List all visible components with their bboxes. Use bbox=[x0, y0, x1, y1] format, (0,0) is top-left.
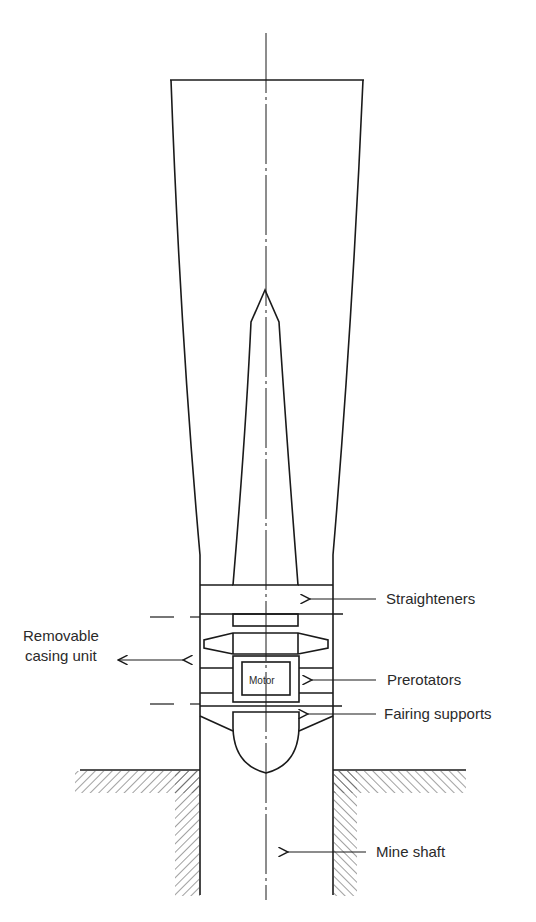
casing-left-wall bbox=[171, 80, 200, 555]
label-mine-shaft: Mine shaft bbox=[376, 843, 445, 861]
label-prerotators: Prerotators bbox=[387, 671, 461, 689]
ground-hatching bbox=[75, 771, 466, 896]
label-straighteners: Straighteners bbox=[386, 590, 475, 608]
label-removable-casing-line2: casing unit bbox=[25, 647, 97, 665]
fairing-support-left bbox=[200, 716, 233, 731]
fairing-support-right bbox=[299, 716, 333, 731]
fan-diagram bbox=[0, 0, 536, 922]
label-removable-casing-line1: Removable bbox=[23, 627, 99, 645]
label-fairing-supports: Fairing supports bbox=[384, 705, 492, 723]
casing-right-wall bbox=[333, 80, 363, 555]
label-motor: Motor bbox=[249, 672, 275, 690]
